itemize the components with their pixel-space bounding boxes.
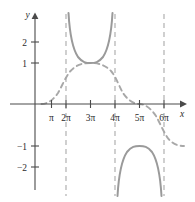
y-tick-label-2: 2: [22, 38, 27, 48]
y-axis-label: y: [24, 10, 30, 20]
x-tick-label-pi: π: [49, 113, 54, 123]
x-axis-arrowhead: [180, 101, 187, 108]
y-axis-arrowhead: [32, 13, 39, 20]
secant-lower-branch: [118, 146, 162, 196]
secant-upper-branch: [69, 13, 113, 63]
y-tick-label-neg1: −1: [17, 142, 27, 152]
axes-group: [10, 13, 187, 191]
x-tick-label-2pi: 2π: [61, 113, 71, 123]
coordinate-plane-svg: π 2π 3π 4π 5π 6π 2 1 −1 −2 y x: [0, 0, 195, 202]
y-tick-labels: 2 1 −1 −2: [17, 38, 27, 173]
x-tick-label-5pi: 5π: [135, 113, 145, 123]
x-tick-label-6pi: 6π: [159, 113, 169, 123]
y-tick-label-1: 1: [22, 59, 27, 69]
graph-figure: π 2π 3π 4π 5π 6π 2 1 −1 −2 y x: [0, 0, 195, 202]
x-axis-label: x: [179, 109, 185, 119]
x-tick-label-3pi: 3π: [86, 113, 96, 123]
x-tick-labels: π 2π 3π 4π 5π 6π: [49, 113, 169, 123]
y-tick-label-neg2: −2: [17, 163, 27, 173]
x-tick-label-4pi: 4π: [110, 113, 120, 123]
